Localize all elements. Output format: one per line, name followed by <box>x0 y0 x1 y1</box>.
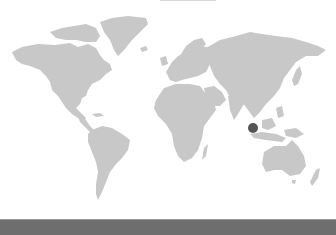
australia <box>262 140 306 176</box>
new-zealand <box>310 168 320 186</box>
caribbean <box>92 113 104 117</box>
footer-bar <box>0 219 336 235</box>
south-america <box>88 126 130 200</box>
footer-bar-edge <box>0 219 336 220</box>
arctic-islands <box>50 24 100 42</box>
central-america <box>78 116 94 132</box>
madagascar <box>202 144 208 160</box>
indonesia <box>250 132 286 142</box>
greenland <box>100 16 148 56</box>
british-isles <box>160 56 168 66</box>
japan <box>292 66 302 86</box>
asia <box>206 32 326 118</box>
tasmania <box>292 180 296 184</box>
borneo <box>262 118 276 130</box>
new-guinea <box>284 128 304 138</box>
iceland <box>140 46 148 52</box>
world-map[interactable] <box>0 0 336 219</box>
location-marker[interactable] <box>248 123 258 133</box>
philippines <box>276 106 284 118</box>
north-america <box>12 43 112 122</box>
